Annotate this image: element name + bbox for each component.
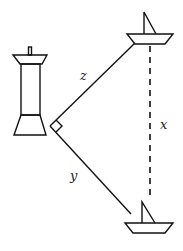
bottom-boat-hull — [125, 223, 173, 233]
diagram-canvas: z x y — [0, 0, 183, 251]
right-angle-marker — [56, 120, 62, 132]
sightline-y — [50, 126, 131, 214]
top-boat-icon — [127, 12, 173, 44]
bottom-boat-sail — [142, 202, 155, 223]
lighthouse-tower — [21, 64, 40, 115]
label-x: x — [160, 117, 168, 132]
label-y: y — [69, 168, 78, 183]
lighthouse-antenna — [29, 47, 32, 55]
lighthouse-icon — [13, 47, 47, 135]
label-z: z — [79, 68, 87, 83]
sightline-z — [50, 43, 135, 126]
top-boat-sail — [144, 12, 156, 34]
lighthouse-base — [14, 115, 46, 135]
lighthouse-top — [13, 55, 47, 64]
top-boat-hull — [127, 34, 173, 44]
bottom-boat-icon — [125, 202, 173, 233]
